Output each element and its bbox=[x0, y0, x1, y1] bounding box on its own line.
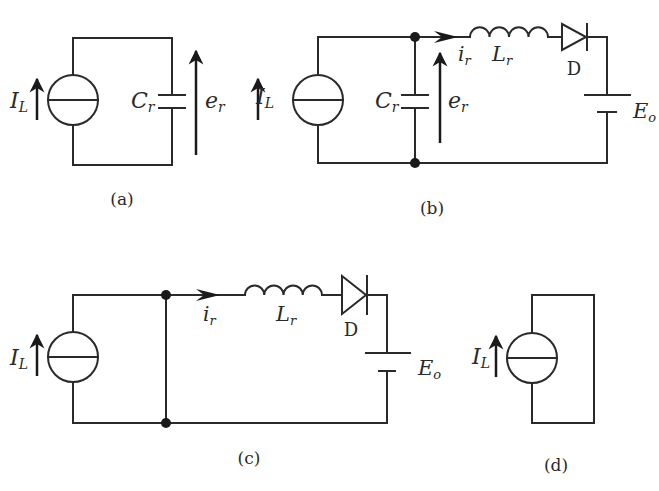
current-label: ir bbox=[203, 302, 216, 328]
source-label: IL bbox=[255, 84, 274, 111]
wire-top-right bbox=[588, 37, 607, 95]
source-label: IL bbox=[471, 344, 490, 371]
panel-d: IL (d) bbox=[471, 295, 594, 475]
circuit-figure: IL Cr er (a) IL bbox=[0, 0, 659, 491]
battery-icon bbox=[366, 353, 410, 371]
panel-c: IL ir Lr D Eo (c) bbox=[9, 276, 441, 468]
caption-c: (c) bbox=[238, 448, 261, 468]
wire-bottom bbox=[73, 108, 172, 165]
wire-top-left bbox=[318, 37, 470, 75]
node-bottom-icon bbox=[161, 418, 171, 428]
current-label: ir bbox=[458, 42, 471, 68]
capacitor-label: Cr bbox=[375, 88, 400, 115]
current-source-icon bbox=[48, 75, 98, 125]
diode-label: D bbox=[567, 58, 581, 79]
caption-b: (b) bbox=[420, 198, 444, 218]
source-label: IL bbox=[9, 345, 28, 372]
wire-bottom bbox=[318, 112, 607, 163]
battery-label: Eo bbox=[417, 356, 441, 382]
source-label: IL bbox=[9, 88, 28, 115]
battery-icon bbox=[585, 95, 630, 112]
wire-top bbox=[73, 38, 172, 95]
wire-top-right bbox=[368, 295, 387, 353]
caption-a: (a) bbox=[110, 189, 133, 209]
inductor-label: Lr bbox=[275, 302, 297, 328]
current-source-icon bbox=[293, 75, 343, 125]
voltage-label: er bbox=[205, 88, 226, 115]
diode-icon bbox=[342, 276, 367, 314]
battery-label: Eo bbox=[632, 99, 656, 125]
capacitor-icon bbox=[159, 95, 185, 108]
node-bottom-icon bbox=[410, 158, 420, 168]
inductor-icon bbox=[470, 27, 548, 37]
current-source-icon bbox=[507, 333, 557, 383]
node-top-icon bbox=[410, 32, 420, 42]
panel-b: IL Cr er ir Lr D Eo (b) bbox=[255, 24, 656, 218]
inductor-label: Lr bbox=[491, 42, 513, 68]
panel-a: IL Cr er (a) bbox=[9, 38, 226, 209]
diode-label: D bbox=[344, 319, 358, 340]
node-top-icon bbox=[161, 290, 171, 300]
current-source-icon bbox=[48, 332, 98, 382]
wire-top-left bbox=[73, 295, 245, 332]
diode-icon bbox=[562, 24, 587, 50]
capacitor-label: Cr bbox=[131, 88, 156, 115]
inductor-icon bbox=[245, 285, 322, 295]
voltage-label: er bbox=[448, 88, 469, 115]
wire-bottom bbox=[73, 371, 387, 423]
caption-d: (d) bbox=[544, 455, 568, 475]
capacitor-icon bbox=[402, 95, 428, 108]
